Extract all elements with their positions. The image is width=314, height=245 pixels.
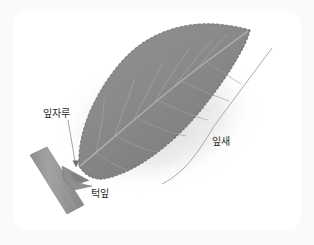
illustration-stage <box>0 0 314 245</box>
label-petiole: 잎자루 <box>43 108 70 119</box>
leaf-diagram-figure: 잎자루 턱잎 잎새 <box>0 0 314 245</box>
leaf-illustration <box>0 0 314 245</box>
label-stipule: 턱잎 <box>91 188 109 199</box>
label-blade: 잎새 <box>212 136 230 147</box>
